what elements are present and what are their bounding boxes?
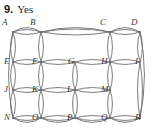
edge-K-O-right: [41, 90, 44, 118]
vertex-B: [40, 31, 42, 33]
answer-header: 9. Yes: [4, 1, 33, 17]
edge-J-N-right: [13, 90, 16, 118]
edge-I-R-left: [138, 62, 141, 118]
vertex-L: [74, 89, 76, 91]
edge-G-L-left: [73, 62, 76, 90]
edge-F-K-right: [41, 62, 44, 90]
edge-C-H-right: [110, 32, 113, 62]
vertex-label-L: L: [67, 85, 72, 94]
vertex-label-K: K: [32, 85, 38, 94]
vertex-label-I: I: [135, 57, 138, 66]
edge-B-C-lower: [41, 32, 110, 35]
vertex-label-R: R: [135, 113, 141, 122]
vertex-M: [109, 89, 111, 91]
vertex-O: [40, 117, 42, 119]
edge-A-E-right: [13, 32, 16, 62]
edge-B-F-left: [39, 32, 42, 62]
vertex-label-N: N: [4, 113, 10, 122]
vertex-I: [139, 61, 141, 63]
vertex-label-A: A: [2, 18, 8, 27]
vertex-F: [40, 61, 42, 63]
edge-L-P-right: [75, 90, 78, 118]
edge-E-J-left: [11, 62, 14, 90]
vertex-H: [109, 61, 111, 63]
graph-diagram: ABCDEFHIJKLMNOPQRG: [0, 18, 154, 134]
answer-text: Yes: [17, 3, 33, 15]
vertex-label-Q: Q: [101, 113, 108, 122]
outer-right-arc: [140, 32, 145, 118]
answer-figure-page: 9. Yes ABCDEFHIJKLMNOPQRG: [0, 0, 154, 134]
vertex-A: [12, 31, 14, 33]
vertex-N: [12, 117, 14, 119]
edge-C-D-lower: [110, 32, 140, 35]
vertex-label-J: J: [4, 85, 8, 94]
vertex-label-M: M: [101, 85, 109, 94]
vertex-label-H: H: [101, 57, 108, 66]
edge-A-B-lower: [13, 32, 41, 35]
vertex-C: [109, 31, 111, 33]
vertex-label-O: O: [32, 113, 39, 122]
edge-F-K-left: [39, 62, 42, 90]
edge-E-J-right: [13, 62, 16, 90]
vertex-label-P: P: [67, 113, 73, 122]
vertex-K: [40, 89, 42, 91]
vertex-D: [139, 31, 141, 33]
edge-G-L-right: [75, 62, 78, 90]
vertex-label-F: F: [32, 57, 38, 66]
vertex-label-E: E: [4, 57, 10, 66]
vertex-P: [74, 117, 76, 119]
vertex-label-C: C: [100, 18, 106, 27]
question-number: 9.: [4, 3, 13, 15]
vertex-Q: [109, 117, 111, 119]
vertex-E: [12, 61, 14, 63]
vertex-label-D: D: [131, 18, 138, 27]
vertex-label-B: B: [30, 18, 36, 27]
edge-H-M-right: [110, 62, 113, 90]
vertex-J: [12, 89, 14, 91]
graph-svg: [0, 18, 154, 134]
edge-M-Q-right: [110, 90, 113, 118]
edge-B-F-right: [41, 32, 44, 62]
outer-top-arc-1: [41, 28, 110, 33]
region-label-G: G: [68, 57, 75, 66]
